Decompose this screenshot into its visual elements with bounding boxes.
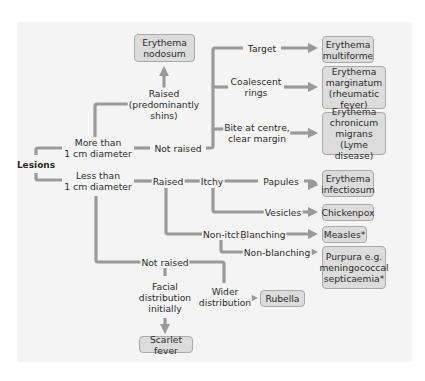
outcome-chickenpox: Chickenpox: [322, 204, 374, 221]
outcome-erythema-chronicum-migrans: Erythema chronicum migrans (Lyme disease…: [322, 112, 386, 155]
outcome-measles: Measles*: [322, 226, 367, 243]
raised-small-label: Raised: [152, 176, 185, 187]
target-label: Target: [247, 43, 277, 54]
outcome-erythema-marginatum: Erythema marginatum (rheumatic fever): [322, 66, 386, 109]
outcome-erythema-multiforme: Erythema multiforme: [322, 36, 374, 63]
outcome-purpura: Purpura e.g. meningococcal septicaemia*: [322, 246, 386, 289]
non-blanching-label: Non-blanching: [243, 247, 312, 258]
facial-distribution-label: Facial distribution initially: [138, 281, 192, 314]
outcome-rubella: Rubella: [260, 290, 305, 307]
outcome-erythema-nodosum: Erythema nodosum: [134, 34, 195, 62]
less-than-1cm-label: Less than 1 cm diameter: [63, 170, 132, 192]
itchy-label: Itchy: [200, 176, 225, 187]
outcome-scarlet-fever: Scarlet fever: [139, 336, 193, 353]
vesicles-label: Vesicles: [264, 207, 303, 218]
not-raised-small-label: Not raised: [140, 257, 189, 268]
wider-distribution-label: Wider distribution: [198, 286, 252, 308]
lesions-root-label: Lesions: [16, 160, 56, 171]
more-than-1cm-label: More than 1 cm diameter: [63, 137, 132, 159]
bite-centre-label: Bite at centre, clear margin: [223, 122, 290, 144]
papules-label: Papules: [262, 176, 299, 187]
blanching-label: Blanching: [239, 229, 286, 240]
raised-shins-label: Raised (predominantly shins): [128, 88, 200, 121]
coalescent-rings-label: Coalescent rings: [230, 76, 283, 98]
outcome-erythema-infectiosum: Erythema infectiosum: [322, 170, 374, 197]
not-raised-large-label: Not raised: [153, 143, 202, 154]
